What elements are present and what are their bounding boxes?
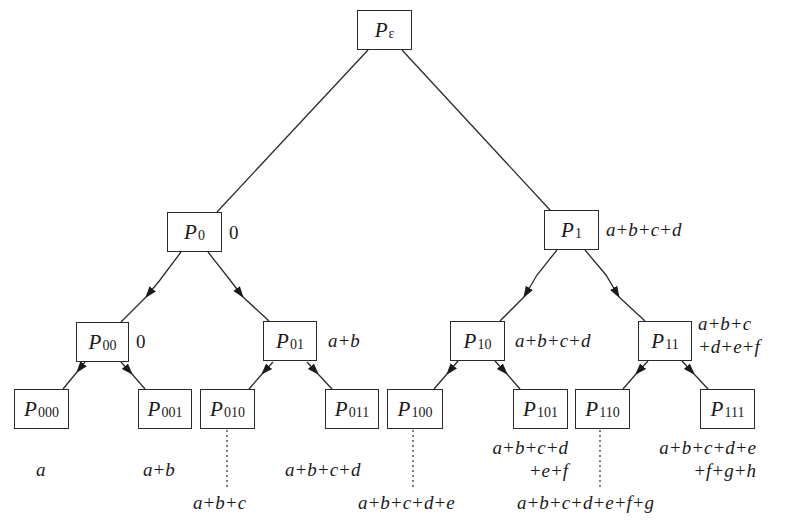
node-p-1: P1 (544, 210, 599, 250)
edge-00-000 (77, 362, 85, 372)
node-main: P (24, 397, 37, 422)
label-p-1: a+b+c+d (606, 219, 681, 241)
edge-00-001 (121, 362, 132, 374)
node-main: P (375, 18, 388, 43)
edge-1-11 (585, 250, 619, 297)
edge-01-011 (307, 362, 318, 374)
label-p-110: a+b+c+d+e+f+g (517, 492, 654, 514)
node-p-10: P10 (450, 321, 505, 361)
node-sub: ε (388, 26, 394, 42)
node-main: P (711, 397, 724, 422)
label-p-000: a (36, 459, 46, 481)
label-p-111-line1: a+b+c+d+e (659, 437, 756, 459)
node-sub: 100 (411, 405, 432, 421)
node-p-101: P101 (513, 389, 568, 429)
node-sub: 10 (477, 337, 491, 353)
label-p-111-line2: +f+g+h (693, 460, 756, 482)
node-main: P (210, 397, 223, 422)
node-main: P (464, 329, 477, 354)
node-sub: 110 (599, 405, 619, 421)
edge-10-100 (447, 361, 458, 374)
label-p-0: 0 (229, 222, 239, 244)
edge-0-00 (146, 252, 181, 297)
node-main: P (276, 329, 289, 354)
node-main: P (398, 397, 411, 422)
node-main: P (89, 330, 102, 355)
node-p-0: P0 (167, 212, 222, 252)
node-p-100: P100 (387, 389, 443, 429)
edge-eps-1 (402, 50, 550, 210)
node-sub: 01 (290, 337, 304, 353)
node-p-11: P11 (638, 321, 692, 361)
node-main: P (335, 397, 348, 422)
node-sub: 010 (224, 405, 245, 421)
node-sub: 00 (102, 338, 116, 354)
node-main: P (585, 397, 598, 422)
node-main: P (651, 329, 664, 354)
node-sub: 11 (665, 337, 678, 353)
edge-0-01 (208, 252, 243, 297)
label-p-100: a+b+c+d+e (358, 492, 455, 514)
node-main: P (184, 220, 197, 245)
label-p-101-line1: a+b+c+d (493, 437, 568, 459)
edge-10-101 (495, 361, 507, 374)
node-main: P (148, 397, 161, 422)
label-p-01: a+b (328, 330, 360, 352)
label-p-011: a+b+c+d (285, 459, 360, 481)
node-p-epsilon: Pε (357, 10, 412, 50)
node-p-111: P111 (700, 389, 755, 429)
node-sub: 011 (349, 405, 369, 421)
node-p-001: P001 (138, 389, 192, 429)
node-p-010: P010 (200, 389, 255, 429)
node-main: P (561, 218, 574, 243)
edge-11-110 (636, 361, 648, 374)
edge-11-111 (682, 361, 694, 374)
label-p-001: a+b (143, 459, 175, 481)
label-p-11-line1: a+b+c (698, 313, 751, 335)
label-p-00: 0 (136, 331, 146, 353)
node-p-01: P01 (263, 321, 317, 361)
node-sub: 1 (575, 226, 582, 242)
node-sub: 0 (198, 228, 205, 244)
label-p-10: a+b+c+d (515, 330, 590, 352)
label-p-101-line2: +e+f (529, 460, 568, 482)
node-p-011: P011 (325, 389, 379, 429)
node-sub: 111 (724, 405, 744, 421)
label-p-010: a+b+c (193, 492, 246, 514)
edge-01-010 (262, 362, 273, 374)
node-p-000: P000 (14, 389, 69, 429)
node-main: P (523, 397, 536, 422)
node-sub: 001 (161, 405, 182, 421)
edge-eps-0 (217, 50, 368, 212)
node-p-00: P00 (76, 322, 129, 362)
label-p-11-line2: +d+e+f (698, 336, 760, 358)
node-sub: 101 (537, 405, 558, 421)
node-p-110: P110 (575, 389, 630, 429)
node-sub: 000 (38, 405, 59, 421)
edge-1-10 (524, 250, 557, 297)
